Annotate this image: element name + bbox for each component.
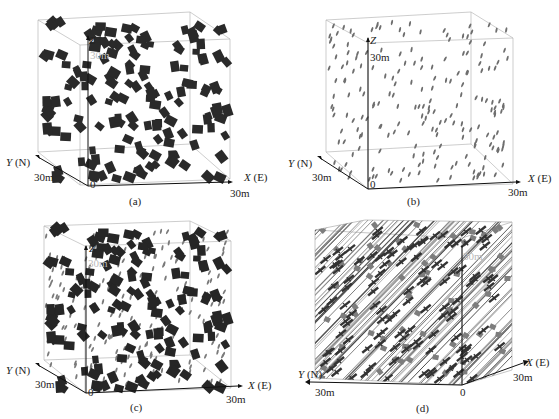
y-length-label: 30m <box>312 171 332 183</box>
y-length-label: 30m <box>315 386 335 398</box>
y-axis-label: Y (N) <box>6 156 30 168</box>
z-length-label: 30m <box>90 49 110 61</box>
y-axis-label: Y (N) <box>288 157 312 169</box>
x-length-label: 30m <box>513 371 533 383</box>
y-axis-label: Y (N) <box>298 368 322 380</box>
panel-a: Z 30m Y (N) 30m 0 X (E) 30m (a) <box>0 0 280 210</box>
panel-caption: (d) <box>416 402 429 414</box>
origin-label: 0 <box>370 178 376 190</box>
y-length-label: 30m <box>34 171 54 183</box>
x-axis-label: X (E) <box>526 356 550 368</box>
origin-label: 0 <box>460 386 466 398</box>
origin-label: 0 <box>88 386 94 398</box>
x-length-label: 30m <box>230 187 250 199</box>
z-axis-label: Z <box>89 34 95 46</box>
x-length-label: 30m <box>226 393 246 405</box>
x-axis-label: X (E) <box>244 171 268 183</box>
panel-caption: (b) <box>407 195 420 207</box>
z-axis-label: Z <box>370 34 376 46</box>
y-axis-label: Y (N) <box>6 364 30 376</box>
panel-d: 30m Y (N) 30m 0 X (E) 30m (d) <box>280 210 559 419</box>
origin-label: 0 <box>90 178 96 190</box>
panel-b: Z 30m Y (N) 30m 0 X (E) 30m (b) <box>280 0 559 210</box>
z-length-label: 30m <box>463 250 483 262</box>
z-length-label: 30m <box>370 51 390 63</box>
panel-caption: (c) <box>130 401 142 413</box>
panel-c: Z 30m Y (N) 30m 0 X (E) 30m (c) <box>0 210 280 419</box>
x-axis-label: X (E) <box>248 379 272 391</box>
x-axis-label: X (E) <box>528 172 552 184</box>
x-length-label: 30m <box>508 186 528 198</box>
y-length-label: 30m <box>35 378 55 390</box>
z-axis-label: Z <box>89 242 95 254</box>
panel-caption: (a) <box>129 195 141 207</box>
z-length-label: 30m <box>88 257 108 269</box>
